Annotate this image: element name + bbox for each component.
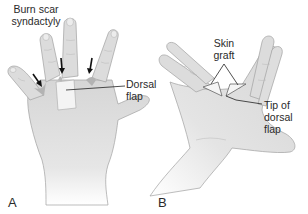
label-line: Dorsal xyxy=(126,78,156,90)
hand-a-ring-finger xyxy=(40,34,60,82)
label-skin-graft: Skin graft xyxy=(208,37,240,61)
hand-a xyxy=(8,18,149,205)
label-line: flap xyxy=(264,123,293,135)
label-burn-scar-syndactyly: Burn scar syndactyly xyxy=(6,3,66,27)
panel-label-a: A xyxy=(8,195,17,210)
label-line: dorsal xyxy=(264,111,293,123)
panel-label-b: B xyxy=(158,195,167,210)
dorsal-flap-a xyxy=(56,80,76,110)
label-line: graft xyxy=(208,49,240,61)
label-line: Skin xyxy=(208,37,240,49)
label-dorsal-flap: Dorsal flap xyxy=(126,78,156,102)
label-line: Burn scar xyxy=(6,3,66,15)
label-line: flap xyxy=(126,90,156,102)
label-line: Tip of xyxy=(264,99,293,111)
label-tip-of-dorsal-flap: Tip of dorsal flap xyxy=(264,99,293,135)
illustration-canvas xyxy=(0,0,308,214)
label-line: syndactyly xyxy=(6,15,66,27)
